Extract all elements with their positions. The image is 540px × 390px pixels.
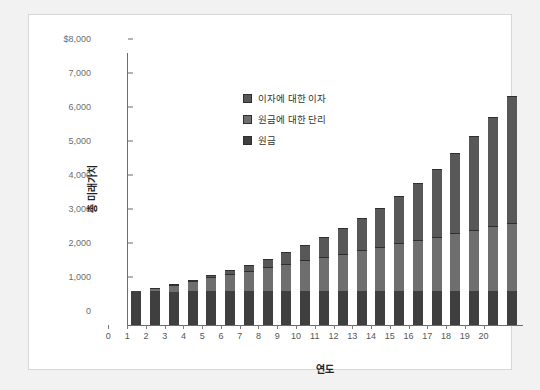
bar[interactable]	[263, 259, 273, 325]
bar[interactable]	[394, 196, 404, 325]
bar[interactable]	[225, 270, 235, 325]
x-axis-tick-mark	[146, 325, 147, 329]
x-axis-tick-mark	[221, 325, 222, 329]
bar-segment-principal	[319, 291, 329, 325]
bar-segment-compound-interest	[450, 153, 460, 233]
bar-segment-principal	[188, 291, 198, 325]
legend-item[interactable]: 원금	[243, 133, 326, 147]
bar-segment-simple-interest	[507, 223, 517, 291]
bar[interactable]	[432, 169, 442, 325]
x-axis-tick-label: 0	[106, 331, 111, 341]
legend-item-label: 원금에 대한 단리	[258, 112, 326, 126]
bar[interactable]	[319, 237, 329, 325]
x-axis-tick-label: 3	[162, 331, 167, 341]
bar[interactable]	[169, 284, 179, 325]
bar-segment-principal	[357, 291, 367, 325]
bar-segment-principal	[263, 291, 273, 325]
x-axis-tick-label: 14	[366, 331, 376, 341]
x-axis-tick-label: 10	[291, 331, 301, 341]
bar[interactable]	[150, 288, 160, 325]
bar-segment-compound-interest	[488, 117, 498, 226]
bar-segment-simple-interest	[206, 277, 216, 291]
x-axis-tick-label: 12	[329, 331, 339, 341]
bar-segment-principal	[300, 291, 310, 325]
y-axis-tick-label: 4,000	[68, 170, 91, 180]
bar-segment-compound-interest	[319, 237, 329, 257]
bar[interactable]	[188, 280, 198, 325]
x-axis-tick-label: 2	[143, 331, 148, 341]
x-axis-tick-label: 1	[125, 331, 130, 341]
bar-segment-principal	[394, 291, 404, 325]
bar-segment-simple-interest	[244, 271, 254, 291]
bar[interactable]	[338, 228, 348, 325]
x-axis-tick-mark	[296, 325, 297, 329]
x-axis-tick-mark	[240, 325, 241, 329]
x-axis-tick-label: 20	[479, 331, 489, 341]
x-axis-tick-mark	[315, 325, 316, 329]
x-axis-tick-label: 13	[347, 331, 357, 341]
bar-segment-principal	[375, 291, 385, 325]
legend-swatch-icon	[243, 136, 252, 145]
bar[interactable]	[300, 245, 310, 325]
bar-segment-principal	[169, 292, 179, 325]
bar[interactable]	[357, 218, 367, 325]
x-axis-tick-label: 16	[404, 331, 414, 341]
x-axis-tick-mark	[352, 325, 353, 329]
x-axis-tick-label: 18	[441, 331, 451, 341]
bar[interactable]	[413, 183, 423, 325]
bar-segment-principal	[225, 291, 235, 325]
x-axis-tick-mark	[427, 325, 428, 329]
x-axis-tick-mark	[258, 325, 259, 329]
bar[interactable]	[281, 252, 291, 325]
bar-segment-simple-interest	[394, 243, 404, 291]
bar[interactable]	[131, 291, 141, 325]
legend-item[interactable]: 원금에 대한 단리	[243, 112, 326, 126]
bar-segment-principal	[488, 291, 498, 325]
bar-segment-compound-interest	[375, 208, 385, 247]
x-axis-tick-mark	[183, 325, 184, 329]
x-axis-tick-label: 8	[256, 331, 261, 341]
x-axis-tick-mark	[390, 325, 391, 329]
x-axis-line	[127, 325, 523, 326]
x-axis-tick-mark	[465, 325, 466, 329]
bar-segment-simple-interest	[469, 230, 479, 291]
bar[interactable]	[375, 208, 385, 325]
x-axis-tick-mark	[127, 325, 128, 329]
bar-segment-compound-interest	[300, 245, 310, 261]
bar[interactable]	[507, 96, 517, 325]
bar-segment-principal	[150, 291, 160, 325]
x-axis-tick-mark	[334, 325, 335, 329]
bar-segment-principal	[413, 291, 423, 325]
y-axis-tick-label: 7,000	[68, 68, 91, 78]
bar[interactable]	[469, 136, 479, 325]
bar-segment-compound-interest	[263, 259, 273, 267]
legend-swatch-icon	[243, 115, 252, 124]
bar-segment-compound-interest	[507, 96, 517, 223]
x-axis-tick-mark	[371, 325, 372, 329]
x-axis-tick-mark	[277, 325, 278, 329]
bar[interactable]	[450, 153, 460, 325]
bar[interactable]	[488, 117, 498, 325]
y-axis-tick-label: 1,000	[68, 272, 91, 282]
y-axis-tick-label: 0	[86, 306, 91, 316]
bar-segment-principal	[131, 291, 141, 325]
legend-item-label: 이자에 대한 이자	[258, 91, 326, 105]
bar[interactable]	[206, 275, 216, 325]
bar-segment-simple-interest	[450, 233, 460, 291]
bar[interactable]	[244, 265, 254, 325]
y-axis-tick-label: 6,000	[68, 102, 91, 112]
x-axis-tick-label: 4	[181, 331, 186, 341]
y-axis-tick-label: 3,000	[68, 204, 91, 214]
chart-legend: 이자에 대한 이자원금에 대한 단리원금	[243, 91, 326, 154]
bar-segment-principal	[338, 291, 348, 325]
y-axis-tick-mark	[128, 39, 133, 40]
bar-segment-simple-interest	[338, 254, 348, 291]
legend-item[interactable]: 이자에 대한 이자	[243, 91, 326, 105]
x-axis-tick-mark	[202, 325, 203, 329]
chart-card: 총 미래가치 연도 01,0002,0003,0004,0005,0006,00…	[28, 14, 512, 370]
bar-segment-simple-interest	[488, 226, 498, 291]
chart-page: 총 미래가치 연도 01,0002,0003,0004,0005,0006,00…	[0, 0, 540, 390]
x-axis-title: 연도	[316, 361, 334, 376]
x-axis-tick-mark	[484, 325, 485, 329]
bar-segment-principal	[244, 291, 254, 325]
